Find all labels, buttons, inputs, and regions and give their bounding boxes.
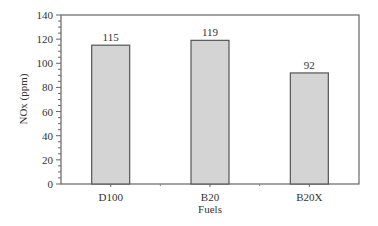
bar-value-label: 92 xyxy=(304,59,315,71)
x-tick-label: B20X xyxy=(296,191,322,203)
bar-b20x xyxy=(290,73,328,184)
y-tick-label: 40 xyxy=(42,130,54,142)
y-axis-label: NOx (ppm) xyxy=(17,73,30,124)
bar-value-label: 115 xyxy=(103,31,120,43)
bars-group: 11511992 xyxy=(92,26,329,184)
y-tick-label: 60 xyxy=(42,106,54,118)
x-tick-label: D100 xyxy=(98,191,123,203)
y-tick-label: 80 xyxy=(42,81,54,93)
x-tick-label: B20 xyxy=(201,191,220,203)
x-axis: D100B20B20X xyxy=(98,184,322,203)
y-tick-label: 120 xyxy=(37,33,54,45)
y-tick-label: 20 xyxy=(42,154,54,166)
x-axis-label: Fuels xyxy=(198,203,222,215)
bar-b20 xyxy=(191,40,229,184)
nox-bar-chart: 11511992 020406080100120140 D100B20B20X … xyxy=(0,0,378,226)
y-tick-label: 0 xyxy=(48,178,54,190)
bar-value-label: 119 xyxy=(202,26,219,38)
y-tick-label: 140 xyxy=(37,9,54,21)
y-axis: 020406080100120140 xyxy=(37,9,62,190)
y-tick-label: 100 xyxy=(37,57,54,69)
bar-d100 xyxy=(92,45,130,184)
